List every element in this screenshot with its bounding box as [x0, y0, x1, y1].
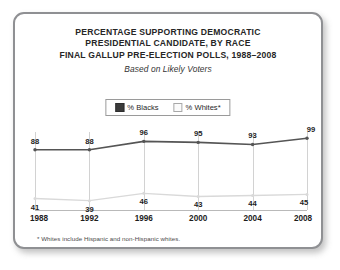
page-title-line-2: PRESIDENTIAL CANDIDATE, BY RACE: [15, 38, 321, 49]
value-label: 39: [85, 205, 93, 214]
value-label: 45: [300, 198, 308, 207]
value-label: 88: [31, 137, 39, 146]
data-point: [88, 199, 91, 202]
page-title-line-1: PERCENTAGE SUPPORTING DEMOCRATIC: [15, 27, 321, 38]
chart-subtitle: Based on Likely Voters: [15, 64, 321, 75]
series-line-blacks: [35, 138, 307, 149]
legend-item-blacks[interactable]: % Blacks: [115, 103, 158, 112]
legend-label-whites: % Whites*: [186, 103, 221, 112]
page-title-line-3: FINAL GALLUP PRE-ELECTION POLLS, 1988–20…: [15, 50, 321, 61]
value-label: 96: [140, 128, 148, 137]
legend-swatch-whites-icon: [174, 103, 183, 112]
legend-item-whites[interactable]: % Whites*: [174, 103, 221, 112]
x-axis-label-2000: 2000: [189, 214, 207, 223]
value-label: 44: [248, 199, 256, 208]
data-point: [142, 140, 145, 143]
data-point: [251, 143, 254, 146]
x-axis-label-1988: 1988: [30, 214, 48, 223]
data-point: [197, 195, 200, 198]
value-label: 41: [31, 203, 39, 212]
data-point: [251, 194, 254, 197]
x-axis-label-1996: 1996: [135, 214, 153, 223]
data-point: [306, 193, 309, 196]
value-label: 95: [194, 129, 202, 138]
value-label: 88: [85, 137, 93, 146]
x-axis-label-2004: 2004: [243, 214, 261, 223]
x-axis-label-2008: 2008: [294, 214, 312, 223]
series-line-whites: [35, 193, 307, 200]
chart-card: PERCENTAGE SUPPORTING DEMOCRATIC PRESIDE…: [13, 12, 323, 249]
data-point: [34, 197, 37, 200]
chart-legend: % Blacks % Whites*: [105, 99, 230, 116]
value-label: 99: [307, 125, 315, 134]
data-point: [305, 137, 308, 140]
chart-footnote: * Whites include Hispanic and non-Hispan…: [37, 235, 180, 242]
x-axis-label-1992: 1992: [80, 214, 98, 223]
data-point: [142, 192, 145, 195]
legend-swatch-blacks-icon: [115, 103, 124, 112]
data-point: [88, 148, 91, 151]
data-point: [33, 148, 36, 151]
x-axis-line: [35, 210, 307, 211]
plot-series: [35, 132, 307, 210]
title-block: PERCENTAGE SUPPORTING DEMOCRATIC PRESIDE…: [15, 27, 321, 75]
data-point: [197, 141, 200, 144]
x-axis-labels: 198819921996200020042008: [35, 214, 307, 228]
legend-label-blacks: % Blacks: [127, 103, 158, 112]
value-label: 43: [194, 200, 202, 209]
chart-screenshot: PERCENTAGE SUPPORTING DEMOCRATIC PRESIDE…: [0, 0, 340, 270]
value-label: 46: [140, 197, 148, 206]
value-label: 93: [248, 131, 256, 140]
